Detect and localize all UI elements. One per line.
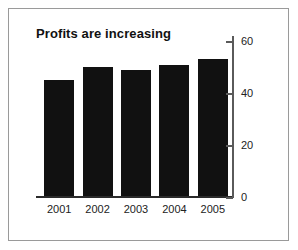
bar-series — [40, 36, 232, 197]
x-tick-label-2004: 2004 — [155, 203, 193, 215]
bar-rect — [159, 65, 189, 197]
y-tick-label-20: 20 — [241, 140, 253, 151]
bar-rect — [83, 67, 113, 197]
x-tick-label-2002: 2002 — [79, 203, 117, 215]
bar-rect — [44, 80, 74, 197]
x-tick-label-2001: 2001 — [40, 203, 78, 215]
bar-rect — [198, 59, 228, 197]
y-tick-0 — [226, 197, 233, 199]
y-tick-label-40: 40 — [241, 88, 253, 99]
y-tick-20 — [226, 145, 233, 147]
bar-rect — [121, 70, 151, 197]
y-tick-label-0: 0 — [241, 192, 247, 203]
x-tick-label-2005: 2005 — [194, 203, 232, 215]
y-axis-line — [232, 36, 234, 198]
y-tick-40 — [226, 93, 233, 95]
y-tick-label-60: 60 — [241, 36, 253, 47]
plot-area — [40, 36, 232, 197]
y-tick-60 — [226, 41, 233, 43]
x-tick-label-2003: 2003 — [117, 203, 155, 215]
x-axis-line — [36, 196, 233, 198]
chart-figure: Profits are increasing 0204060 200120022… — [0, 0, 298, 250]
